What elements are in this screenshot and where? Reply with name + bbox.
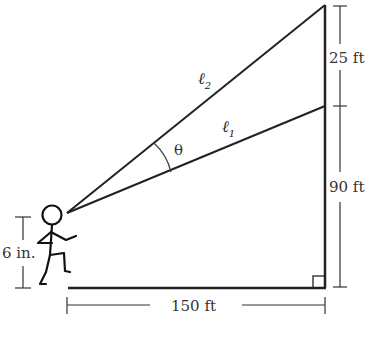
stick-figure xyxy=(38,206,76,285)
label-l2: ℓ2 xyxy=(198,69,211,91)
label-l1: ℓ1 xyxy=(222,117,235,139)
label-25ft: 25 ft xyxy=(329,49,364,67)
sight-line-1 xyxy=(67,106,325,213)
label-150ft: 150 ft xyxy=(171,297,216,315)
right-angle-marker xyxy=(313,276,325,288)
label-theta: θ xyxy=(174,141,183,159)
dimension-90ft xyxy=(333,106,347,287)
diagram-canvas: ℓ2 ℓ1 θ 25 ft 90 ft 150 ft 6 in. xyxy=(0,0,383,351)
label-90ft: 90 ft xyxy=(329,178,364,196)
figure-head xyxy=(43,206,62,225)
label-6in: 6 in. xyxy=(2,244,36,262)
angle-arc xyxy=(154,143,171,172)
sight-line-2 xyxy=(67,5,325,213)
